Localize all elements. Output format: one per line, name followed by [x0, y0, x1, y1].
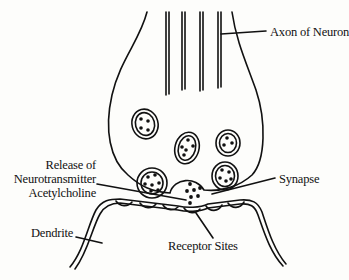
- label-receptor-sites: Receptor Sites: [168, 239, 238, 253]
- vesicle: [129, 106, 162, 142]
- dendrite-membrane-inner: [75, 203, 283, 269]
- label-release-line1: Release of: [10, 158, 96, 172]
- label-release-line2: Neurotransmitter: [0, 172, 96, 186]
- axon-fiber: [182, 12, 185, 90]
- vesicle: [212, 162, 238, 190]
- label-dendrite: Dendrite: [31, 226, 73, 240]
- vesicle: [216, 130, 240, 156]
- synapse-diagram: Axon of Neuron Release of Neurotransmitt…: [0, 0, 349, 280]
- label-synapse: Synapse: [279, 172, 319, 186]
- axon-fiber: [218, 12, 221, 88]
- axon-pointer-line: [221, 31, 266, 34]
- label-release-line3: Acetylcholine: [0, 186, 96, 200]
- vesicle: [171, 129, 202, 166]
- axon-fiber: [166, 12, 169, 95]
- axon-fiber: [200, 12, 203, 91]
- label-axon-of-neuron: Axon of Neuron: [270, 25, 349, 39]
- receptor-pointer-line: [196, 213, 213, 238]
